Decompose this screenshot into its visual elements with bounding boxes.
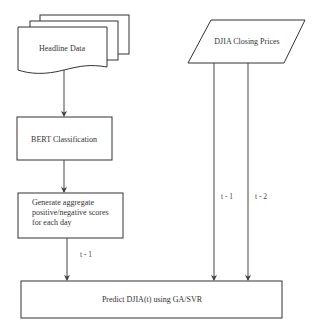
flowchart-canvas: Headline Data DJIA Closing Prices BERT C… <box>0 0 314 335</box>
djia-closing-prices-node: DJIA Closing Prices <box>188 20 305 63</box>
headline-data-node: Headline Data <box>18 15 129 73</box>
djia-closing-prices-label: DJIA Closing Prices <box>214 37 279 46</box>
headline-data-label: Headline Data <box>39 44 85 53</box>
bert-classification-node: BERT Classification <box>17 117 112 160</box>
aggregate-label-line-2: positive/negative scores <box>32 208 109 217</box>
edge-label-djia-t-1: t - 1 <box>221 192 233 201</box>
aggregate-label-line-1: Generate aggregate <box>32 198 94 207</box>
predict-node: Predict DJIA(t) using GA/SVR <box>21 281 282 318</box>
bert-classification-label: BERT Classification <box>31 135 97 144</box>
edge-label-djia-t-2: t - 2 <box>255 192 267 201</box>
aggregate-scores-node: Generate aggregate positive/negative sco… <box>18 193 123 238</box>
aggregate-label-line-3: for each day <box>32 218 72 227</box>
edge-label-aggregate-t-1: t - 1 <box>80 250 92 259</box>
predict-label: Predict DJIA(t) using GA/SVR <box>102 295 203 304</box>
